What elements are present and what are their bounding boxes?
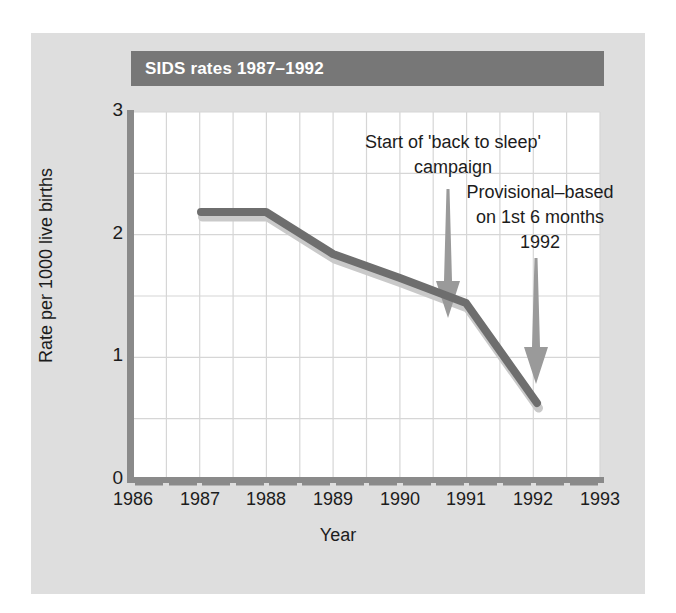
x-tick-1987: 1987 — [165, 489, 235, 510]
x-axis-label: Year — [0, 525, 676, 546]
y-tick-2: 2 — [99, 222, 123, 244]
x-tick-1988: 1988 — [231, 489, 301, 510]
y-axis-ticks: 3 2 1 0 — [93, 0, 123, 613]
x-axis-line — [127, 477, 604, 483]
x-tick-1986: 1986 — [98, 489, 168, 510]
x-tick-1992: 1992 — [498, 489, 568, 510]
y-tick-3: 3 — [99, 99, 123, 121]
y-tick-1: 1 — [99, 344, 123, 366]
x-tick-1991: 1991 — [431, 489, 501, 510]
annotation-back-to-sleep: Start of 'back to sleep' campaign — [328, 130, 578, 180]
y-tick-0: 0 — [99, 467, 123, 489]
x-tick-1989: 1989 — [298, 489, 368, 510]
y-axis-line — [127, 110, 134, 482]
chart-title-bar: SIDS rates 1987–1992 — [131, 51, 604, 86]
x-tick-1990: 1990 — [365, 489, 435, 510]
annotation-provisional: Provisional–based on 1st 6 months 1992 — [440, 180, 640, 255]
sids-chart-figure: SIDS rates 1987–1992 — [0, 0, 676, 613]
x-tick-1993: 1993 — [565, 489, 635, 510]
chart-title: SIDS rates 1987–1992 — [131, 59, 324, 79]
y-axis-label: Rate per 1000 live births — [36, 156, 57, 376]
